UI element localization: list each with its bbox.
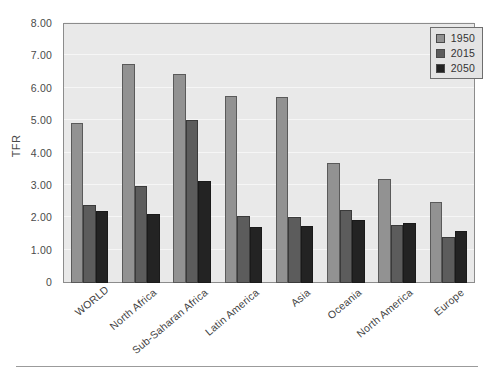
y-axis-tick-labels: 01.002.003.004.005.006.007.008.00 xyxy=(0,23,58,283)
legend-item[interactable]: 2050 xyxy=(436,62,475,74)
bar xyxy=(352,220,365,283)
y-axis-tick-label: 7.00 xyxy=(31,49,52,61)
legend-item[interactable]: 1950 xyxy=(436,32,475,44)
y-axis-tick-label: 1.00 xyxy=(31,244,52,256)
legend: 195020152050 xyxy=(430,27,483,79)
bar xyxy=(288,217,301,283)
bar xyxy=(83,205,96,283)
bar xyxy=(455,231,468,283)
bar-group xyxy=(71,24,109,283)
bar xyxy=(71,123,84,283)
bar xyxy=(225,96,238,283)
legend-swatch-icon xyxy=(436,34,445,43)
bar-group xyxy=(122,24,160,283)
legend-swatch-icon xyxy=(436,49,445,58)
bar xyxy=(237,216,250,283)
bar-group xyxy=(225,24,263,283)
bar xyxy=(301,226,314,283)
y-axis-tick-label: 5.00 xyxy=(31,114,52,126)
bar xyxy=(378,179,391,283)
bar-group xyxy=(173,24,211,283)
bar xyxy=(186,120,199,283)
bar xyxy=(430,202,443,283)
bar xyxy=(403,223,416,283)
bar-group xyxy=(327,24,365,283)
bar xyxy=(340,210,353,283)
x-axis-tick-labels: WORLDNorth AfricaSub-Saharan AfricaLatin… xyxy=(64,286,474,366)
y-axis-tick-label: 6.00 xyxy=(31,82,52,94)
y-axis-tick-label: 2.00 xyxy=(31,211,52,223)
legend-label: 1950 xyxy=(451,32,475,44)
bar xyxy=(276,97,289,283)
legend-swatch-icon xyxy=(436,64,445,73)
bar xyxy=(250,227,263,283)
x-axis-tick-label: WORLD xyxy=(72,286,107,318)
bar xyxy=(96,211,109,283)
bar xyxy=(135,186,148,283)
legend-label: 2015 xyxy=(451,47,475,59)
bar-group xyxy=(378,24,416,283)
bar xyxy=(327,163,340,283)
bar xyxy=(173,74,186,283)
legend-item[interactable]: 2015 xyxy=(436,47,475,59)
bar xyxy=(147,214,160,283)
gridline xyxy=(64,22,474,23)
bar xyxy=(391,225,404,283)
bottom-divider xyxy=(16,366,478,367)
y-axis-tick-label: 3.00 xyxy=(31,179,52,191)
legend-label: 2050 xyxy=(451,62,475,74)
bar-group xyxy=(276,24,314,283)
bar xyxy=(198,181,211,283)
y-axis-tick-label: 0 xyxy=(46,276,52,288)
bars-layer xyxy=(64,24,474,283)
y-axis-tick-label: 8.00 xyxy=(31,17,52,29)
y-axis-tick-label: 4.00 xyxy=(31,147,52,159)
chart-figure: TFR 01.002.003.004.005.006.007.008.00 WO… xyxy=(0,0,497,384)
bar xyxy=(122,64,135,284)
bar xyxy=(442,237,455,283)
